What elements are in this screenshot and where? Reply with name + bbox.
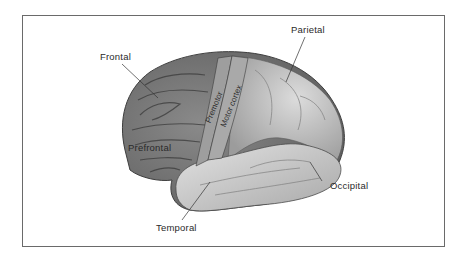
label-frontal: Frontal: [100, 51, 131, 62]
label-prefrontal: Prefrontal: [128, 142, 171, 153]
label-occipital: Occipital: [330, 180, 368, 191]
label-temporal: Temporal: [156, 222, 197, 233]
label-parietal: Parietal: [291, 24, 325, 35]
brain-illustration: [0, 0, 464, 261]
